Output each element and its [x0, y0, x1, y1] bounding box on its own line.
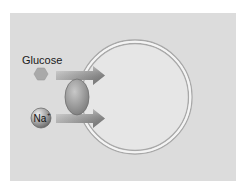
sodium-ion: Na + [31, 108, 51, 128]
cell-inner-membrane [82, 44, 189, 151]
sodium-charge-label: + [47, 111, 51, 117]
cell [78, 40, 192, 154]
glucose-label: Glucose [22, 54, 62, 66]
glucose-hexagon-icon [34, 68, 48, 80]
sodium-label: Na [34, 113, 47, 124]
cotransport-diagram: Glucose Na + [0, 0, 246, 190]
cotransporter-protein-icon [65, 79, 89, 115]
